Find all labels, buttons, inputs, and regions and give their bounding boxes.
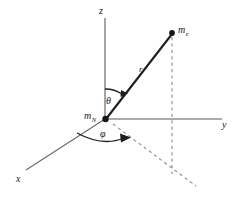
particle-mass-subscript: e (186, 30, 189, 37)
y-axis-label: y (221, 119, 227, 130)
x-axis-label: x (15, 173, 21, 184)
x-axis-line (26, 119, 105, 170)
origin-mass-label: mN (84, 110, 97, 123)
particle-mass-symbol: m (178, 24, 185, 35)
origin-mass-symbol: m (84, 110, 91, 121)
construction-lines-group (113, 37, 196, 186)
spherical-coordinates-figure: z y x mN me r θ φ (0, 0, 237, 199)
origin-point-marker (102, 116, 108, 122)
z-axis-label: z (98, 5, 103, 16)
theta-angle-label: θ (106, 95, 111, 106)
particle-mass-label: me (178, 24, 189, 37)
radius-vector-group (106, 34, 172, 119)
particle-point-marker (169, 30, 175, 36)
radius-vector-line (106, 34, 172, 119)
phi-arrowhead (120, 134, 131, 143)
diagram-canvas: z y x mN me r θ φ (0, 0, 237, 199)
radius-length-label: r (139, 64, 143, 74)
ground-projection-dashed-line (113, 124, 196, 186)
phi-angle-label: φ (100, 128, 106, 139)
origin-mass-subscript: N (91, 116, 97, 123)
theta-arc (105, 89, 122, 94)
